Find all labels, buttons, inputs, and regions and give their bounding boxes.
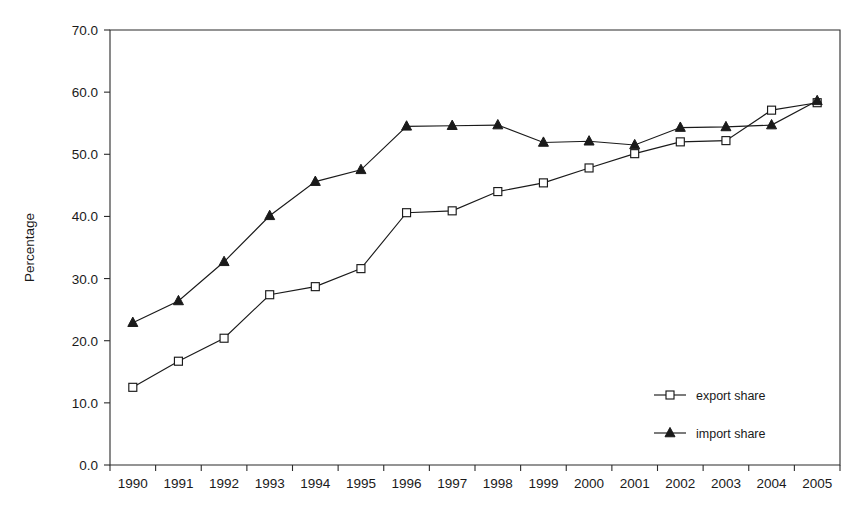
- datapoint-export-share-1998-marker: [494, 188, 502, 196]
- datapoint-export-share-1993-marker: [266, 291, 274, 299]
- line-chart: 0.010.020.030.040.050.060.070.0199019911…: [0, 0, 865, 524]
- y-axis-tick-label: 70.0: [72, 23, 98, 38]
- legend-1-marker: [665, 427, 675, 436]
- legend-label-1: import share: [696, 427, 766, 441]
- datapoint-import-share-2000-marker: [584, 136, 594, 145]
- x-axis-tick-label: 1996: [392, 476, 422, 491]
- datapoint-export-share-1997-marker: [448, 207, 456, 215]
- x-axis-tick-label: 1999: [528, 476, 558, 491]
- datapoint-import-share-2003-marker: [721, 121, 731, 130]
- x-axis-tick-label: 1998: [483, 476, 513, 491]
- datapoint-export-share-2003-marker: [722, 137, 730, 145]
- x-axis-tick-label: 1990: [118, 476, 148, 491]
- chart-container: 0.010.020.030.040.050.060.070.0199019911…: [0, 0, 865, 524]
- datapoint-import-share-1993-marker: [265, 210, 275, 219]
- y-axis-tick-label: 10.0: [72, 396, 98, 411]
- datapoint-export-share-1991-marker: [174, 357, 182, 365]
- y-axis-tick-label: 0.0: [79, 458, 98, 473]
- series-line-import-share: [133, 101, 817, 323]
- datapoint-import-share-1990-marker: [128, 317, 138, 326]
- datapoint-export-share-1999-marker: [539, 179, 547, 187]
- datapoint-import-share-2004-marker: [767, 119, 777, 128]
- x-axis-tick-label: 1995: [346, 476, 376, 491]
- datapoint-export-share-2002-marker: [676, 138, 684, 146]
- y-axis-tick-label: 40.0: [72, 209, 98, 224]
- datapoint-export-share-1994-marker: [311, 283, 319, 291]
- x-axis-tick-label: 1991: [163, 476, 193, 491]
- x-axis-tick-label: 2005: [802, 476, 832, 491]
- datapoint-import-share-1996-marker: [402, 121, 412, 130]
- x-axis-tick-label: 1994: [300, 476, 331, 491]
- datapoint-export-share-1992-marker: [220, 334, 228, 342]
- datapoint-export-share-1990-marker: [129, 383, 137, 391]
- x-axis-tick-label: 2001: [620, 476, 650, 491]
- datapoint-import-share-2002-marker: [675, 122, 685, 131]
- y-axis-tick-label: 50.0: [72, 147, 98, 162]
- y-axis-title: Percentage: [22, 213, 37, 282]
- x-axis-tick-label: 2003: [711, 476, 741, 491]
- x-axis-tick-label: 1997: [437, 476, 467, 491]
- datapoint-export-share-2004-marker: [768, 106, 776, 114]
- series-line-export-share: [133, 103, 817, 388]
- y-axis-tick-label: 60.0: [72, 85, 98, 100]
- datapoint-import-share-1991-marker: [173, 295, 183, 304]
- datapoint-export-share-2000-marker: [585, 164, 593, 172]
- y-axis-tick-label: 30.0: [72, 272, 98, 287]
- legend-label-0: export share: [696, 389, 766, 403]
- datapoint-export-share-1996-marker: [403, 209, 411, 217]
- x-axis-tick-label: 2004: [757, 476, 788, 491]
- datapoint-import-share-1995-marker: [356, 164, 366, 173]
- y-axis-tick-label: 20.0: [72, 334, 98, 349]
- datapoint-export-share-1995-marker: [357, 265, 365, 273]
- x-axis-tick-label: 2002: [665, 476, 695, 491]
- legend-0-marker: [666, 391, 674, 399]
- datapoint-export-share-2001-marker: [631, 150, 639, 158]
- x-axis-tick-label: 1992: [209, 476, 239, 491]
- datapoint-import-share-1998-marker: [493, 119, 503, 128]
- x-axis-tick-label: 2000: [574, 476, 604, 491]
- x-axis-tick-label: 1993: [255, 476, 285, 491]
- datapoint-import-share-1997-marker: [447, 120, 457, 129]
